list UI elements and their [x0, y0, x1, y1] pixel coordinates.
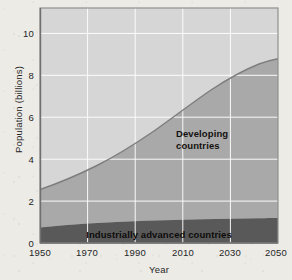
- y-tick-label-2: 2: [12, 196, 34, 207]
- x-tick-label-1990: 1990: [118, 247, 152, 258]
- x-tick-label-2050: 2050: [259, 247, 292, 258]
- developing-label-line1: Developing: [176, 128, 272, 140]
- x-tick-label-2010: 2010: [166, 247, 200, 258]
- x-axis-title: Year: [40, 264, 278, 275]
- population-projection-area-chart: 10 8 6 4 2 0 1950 1970 1990 2010 2030 20…: [0, 0, 292, 280]
- x-tick-label-2030: 2030: [213, 247, 247, 258]
- y-tick-label-10: 10: [12, 28, 34, 39]
- y-axis-title: Population (billions): [13, 40, 24, 180]
- x-tick-label-1950: 1950: [23, 247, 57, 258]
- series-annotation-developing-countries: Developing countries: [176, 128, 272, 152]
- series-annotation-industrially-advanced-countries: Industrially advanced countries: [40, 229, 278, 241]
- x-tick-label-1970: 1970: [70, 247, 104, 258]
- developing-label-line2: countries: [176, 140, 272, 152]
